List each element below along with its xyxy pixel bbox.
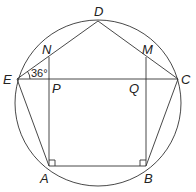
label-N: N [42,42,52,57]
pentagon-diagram: 36° D E C A B N M P Q [0,0,196,192]
angle-arc-E [28,71,31,79]
angle-label-36: 36° [31,67,48,79]
circumscribed-circle [15,20,181,186]
label-D: D [94,4,103,19]
label-E: E [3,72,12,87]
right-angle-marker-B [140,160,146,166]
label-P: P [52,81,61,96]
label-B: B [144,171,153,186]
label-Q: Q [129,81,139,96]
right-angle-marker-A [49,160,55,166]
label-A: A [39,171,49,186]
label-M: M [142,42,153,57]
label-C: C [181,72,191,87]
